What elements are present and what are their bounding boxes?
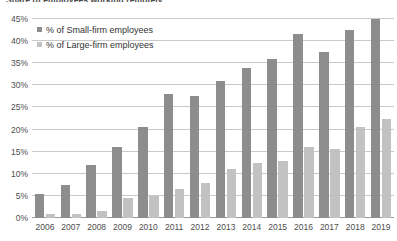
- x-axis-tick-label: 2019: [372, 222, 391, 232]
- bar-large-firm: [46, 214, 56, 218]
- bar-large-firm: [304, 147, 314, 218]
- bar-small-firm: [112, 147, 122, 218]
- legend-label: % of Small-firm employees: [46, 25, 153, 35]
- bar-small-firm: [35, 194, 45, 218]
- x-axis-tick-label: 2008: [87, 222, 106, 232]
- bar-group: [316, 19, 342, 218]
- legend-swatch-icon: [37, 42, 42, 47]
- legend-item[interactable]: % of Large-firm employees: [37, 39, 154, 50]
- bar-group: [291, 19, 317, 218]
- chart-title: Share of employees working remotely: [6, 0, 163, 2]
- bar-small-firm: [164, 94, 174, 218]
- bar-small-firm: [190, 96, 200, 218]
- x-axis-tick-label: 2013: [216, 222, 235, 232]
- bar-large-firm: [149, 196, 159, 218]
- bar-large-firm: [278, 161, 288, 218]
- x-axis-tick-label: 2011: [165, 222, 183, 232]
- bar-group: [239, 19, 265, 218]
- bar-small-firm: [86, 165, 96, 218]
- bar-large-firm: [227, 169, 237, 218]
- bar-chart: Share of employees working remotely 0%5%…: [0, 0, 397, 241]
- x-axis-tick-label: 2010: [139, 222, 158, 232]
- bar-group: [161, 19, 187, 218]
- bar-group: [342, 19, 368, 218]
- x-axis-tick-label: 2017: [320, 222, 339, 232]
- x-axis-tick-label: 2009: [113, 222, 132, 232]
- legend-label: % of Large-firm employees: [46, 40, 154, 50]
- bar-large-firm: [330, 149, 340, 218]
- bar-large-firm: [175, 189, 185, 218]
- bar-large-firm: [356, 127, 366, 218]
- x-axis-tick-label: 2014: [242, 222, 261, 232]
- y-axis-tick-label: 35%: [11, 59, 28, 68]
- bar-small-firm: [216, 81, 226, 218]
- y-axis-tick-label: 45%: [11, 15, 28, 24]
- bar-large-firm: [123, 198, 133, 218]
- y-axis-tick-label: 40%: [11, 37, 28, 46]
- bar-small-firm: [293, 34, 303, 218]
- x-axis: 2006200720082009201020112012201320142015…: [32, 220, 394, 236]
- y-axis-tick-label: 0%: [16, 214, 28, 223]
- y-axis-tick-label: 20%: [11, 125, 28, 134]
- bar-small-firm: [371, 19, 381, 218]
- bar-small-firm: [61, 185, 71, 218]
- bar-small-firm: [242, 68, 252, 218]
- legend-item[interactable]: % of Small-firm employees: [37, 24, 154, 35]
- bar-large-firm: [253, 163, 263, 218]
- x-axis-tick-label: 2016: [294, 222, 313, 232]
- bar-small-firm: [345, 30, 355, 218]
- bar-group: [187, 19, 213, 218]
- y-axis: 0%5%10%15%20%25%30%35%40%45%: [0, 19, 28, 218]
- bar-large-firm: [201, 183, 211, 218]
- x-axis-tick-label: 2018: [346, 222, 365, 232]
- bar-large-firm: [382, 119, 392, 219]
- x-axis-tick-label: 2006: [35, 222, 54, 232]
- y-axis-tick-label: 5%: [16, 191, 28, 200]
- x-axis-tick-label: 2007: [61, 222, 80, 232]
- bar-large-firm: [72, 214, 82, 218]
- bar-group: [368, 19, 394, 218]
- bar-group: [213, 19, 239, 218]
- bar-small-firm: [267, 59, 277, 218]
- y-axis-tick-label: 15%: [11, 147, 28, 156]
- legend-swatch-icon: [37, 27, 42, 32]
- bar-small-firm: [319, 52, 329, 218]
- y-axis-tick-label: 25%: [11, 103, 28, 112]
- bar-large-firm: [97, 211, 107, 218]
- x-axis-tick-label: 2015: [268, 222, 287, 232]
- bar-small-firm: [138, 127, 148, 218]
- y-axis-tick-label: 10%: [11, 169, 28, 178]
- bar-group: [265, 19, 291, 218]
- x-axis-tick-label: 2012: [191, 222, 210, 232]
- chart-legend: % of Small-firm employees% of Large-firm…: [37, 24, 154, 50]
- y-axis-tick-label: 30%: [11, 81, 28, 90]
